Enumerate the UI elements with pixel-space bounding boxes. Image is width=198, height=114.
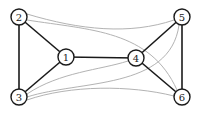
- edge-1-4: [66, 57, 136, 58]
- node-label-5: 5: [179, 12, 185, 23]
- edge-4-6: [136, 58, 182, 97]
- edge-3-1: [19, 57, 66, 97]
- node-5: 5: [174, 9, 190, 25]
- curve-edge-3-5: [27, 25, 179, 97]
- node-4: 4: [128, 50, 144, 66]
- graph-diagram: 1 2 3 4 5 6: [0, 0, 198, 114]
- node-label-1: 1: [63, 52, 69, 63]
- curve-edge-2-6: [27, 20, 177, 90]
- edge-2-1: [19, 17, 66, 57]
- node-label-4: 4: [133, 53, 139, 64]
- curve-edge-3-6: [27, 88, 174, 100]
- node-label-6: 6: [179, 92, 185, 103]
- node-label-2: 2: [16, 12, 22, 23]
- node-2: 2: [11, 9, 27, 25]
- node-3: 3: [11, 89, 27, 105]
- node-1: 1: [58, 49, 74, 65]
- node-6: 6: [174, 89, 190, 105]
- edge-4-5: [136, 17, 182, 58]
- node-label-3: 3: [16, 92, 22, 103]
- curve-edge-2-5: [27, 14, 174, 29]
